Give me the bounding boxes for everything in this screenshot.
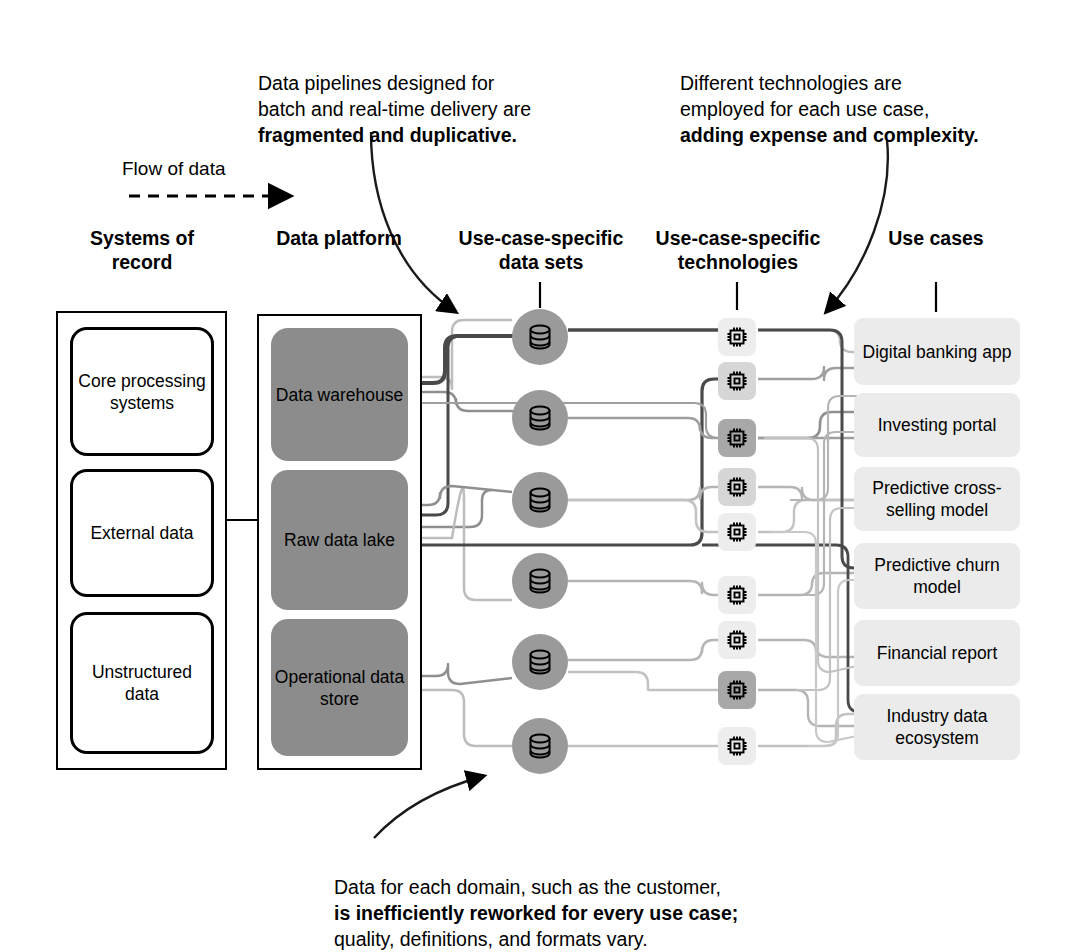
column-heading-data-sets: Use-case-specific data sets: [443, 226, 639, 274]
flow-of-data-label: Flow of data: [122, 158, 226, 180]
platform-card-data-warehouse[interactable]: Data warehouse: [271, 328, 408, 461]
callout-pipelines-plain: Data pipelines designed for batch and re…: [258, 72, 531, 120]
database-icon: [525, 566, 555, 596]
source-card-label: Core processing systems: [73, 370, 211, 414]
callout-pipelines: Data pipelines designed for batch and re…: [258, 44, 558, 148]
dataset-node-5[interactable]: [512, 634, 568, 690]
dataset-node-1[interactable]: [512, 309, 568, 365]
use-case-card-predictive-churn-model[interactable]: Predictive churn model: [854, 543, 1020, 609]
use-case-label: Predictive churn model: [854, 554, 1020, 598]
dataset-node-4[interactable]: [512, 553, 568, 609]
use-case-card-industry-data-ecosystem[interactable]: Industry data ecosystem: [854, 694, 1020, 760]
use-case-label: Financial report: [877, 642, 998, 664]
chip-icon: [725, 734, 749, 758]
chip-icon: [725, 583, 749, 607]
technology-node-2[interactable]: [718, 362, 756, 400]
callout-domains-plain-after: quality, definitions, and formats vary.: [334, 928, 648, 950]
column-heading-use-cases: Use cases: [866, 226, 1006, 250]
callout-pipelines-bold: fragmented and duplicative.: [258, 124, 517, 146]
chip-icon: [725, 520, 749, 544]
source-card-core-processing-systems[interactable]: Core processing systems: [70, 327, 214, 456]
database-icon: [525, 647, 555, 677]
technology-node-6[interactable]: [718, 576, 756, 614]
source-card-label: External data: [90, 522, 193, 544]
callout-technologies-plain: Different technologies are employed for …: [680, 72, 929, 120]
platform-card-label: Raw data lake: [284, 529, 395, 551]
use-case-card-investing-portal[interactable]: Investing portal: [854, 393, 1020, 457]
source-card-unstructured-data[interactable]: Unstructured data: [70, 612, 214, 754]
chip-icon: [725, 369, 749, 393]
technology-node-3[interactable]: [718, 419, 756, 457]
column-heading-technologies: Use-case-specific technologies: [640, 226, 836, 274]
column-heading-data-platform: Data platform: [258, 226, 420, 250]
callout-arrow-domains: [374, 776, 484, 838]
database-icon: [525, 731, 555, 761]
dataset-node-6[interactable]: [512, 718, 568, 774]
technology-node-5[interactable]: [718, 513, 756, 551]
chip-icon: [725, 678, 749, 702]
database-icon: [525, 403, 555, 433]
use-case-label: Investing portal: [878, 414, 997, 436]
source-card-external-data[interactable]: External data: [70, 469, 214, 597]
technology-node-9[interactable]: [718, 727, 756, 765]
chip-icon: [725, 325, 749, 349]
callout-domains-bold: is inefficiently reworked for every use …: [334, 902, 738, 924]
use-case-card-digital-banking-app[interactable]: Digital banking app: [854, 318, 1020, 385]
technology-node-7[interactable]: [718, 621, 756, 659]
callout-domains-plain-before: Data for each domain, such as the custom…: [334, 876, 721, 898]
technology-node-1[interactable]: [718, 318, 756, 356]
chip-icon: [725, 475, 749, 499]
database-icon: [525, 322, 555, 352]
use-case-label: Industry data ecosystem: [854, 705, 1020, 749]
use-case-card-predictive-cross-selling-model[interactable]: Predictive cross-selling model: [854, 467, 1020, 531]
callout-arrow-pipelines: [371, 132, 456, 312]
callout-technologies: Different technologies are employed for …: [680, 44, 1020, 148]
dataset-node-2[interactable]: [512, 390, 568, 446]
technology-node-8[interactable]: [718, 671, 756, 709]
platform-card-label: Operational data store: [271, 666, 408, 710]
database-icon: [525, 485, 555, 515]
chip-icon: [725, 628, 749, 652]
use-case-label: Predictive cross-selling model: [854, 477, 1020, 521]
dataset-node-3[interactable]: [512, 472, 568, 528]
callout-technologies-bold: adding expense and complexity.: [680, 124, 979, 146]
source-card-label: Unstructured data: [73, 661, 211, 705]
callout-domains: Data for each domain, such as the custom…: [334, 848, 804, 952]
platform-card-raw-data-lake[interactable]: Raw data lake: [271, 470, 408, 610]
use-case-label: Digital banking app: [863, 341, 1012, 363]
technology-node-4[interactable]: [718, 468, 756, 506]
column-heading-systems-of-record: Systems of record: [62, 226, 222, 274]
platform-card-operational-data-store[interactable]: Operational data store: [271, 619, 408, 756]
platform-card-label: Data warehouse: [276, 384, 403, 406]
chip-icon: [725, 426, 749, 450]
use-case-card-financial-report[interactable]: Financial report: [854, 620, 1020, 686]
